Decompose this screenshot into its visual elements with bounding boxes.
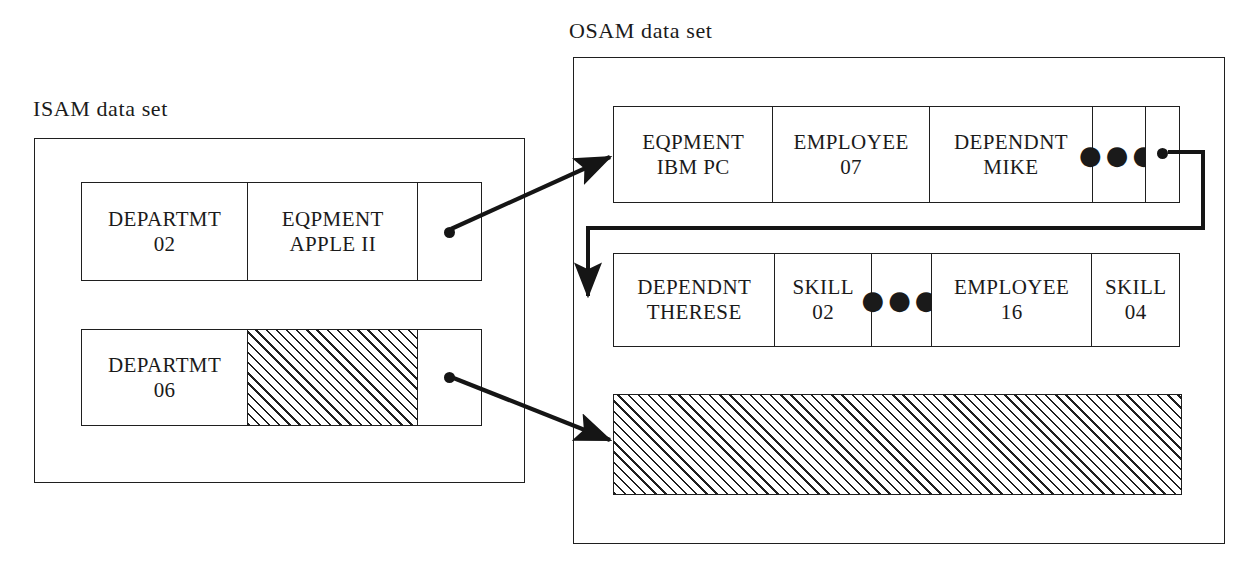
ellipsis-icon: ●●● — [861, 287, 941, 313]
cell-line-2: 04 — [1125, 300, 1147, 325]
cell-line-2: 02 — [154, 232, 176, 257]
osam-data-set-label: OSAM data set — [569, 18, 712, 44]
cell-line-1: SKILL — [1105, 275, 1167, 300]
pointer-dot-icon — [444, 372, 455, 383]
pointer-dot-icon — [1157, 148, 1168, 159]
isam-record-2-hatched-cell — [248, 330, 418, 425]
diagram-canvas: ISAM data set DEPARTMT 02 EQPMENT APPLE … — [0, 0, 1247, 573]
isam-data-set-label: ISAM data set — [33, 96, 168, 122]
osam-record-1-cell-dependnt: DEPENDNT MIKE — [930, 107, 1093, 202]
isam-record-1-pointer-cell — [418, 183, 481, 280]
cell-line-1: EMPLOYEE — [793, 130, 908, 155]
cell-line-1: DEPARTMT — [108, 353, 221, 378]
cell-line-1: EQPMENT — [642, 130, 744, 155]
cell-line-2: 02 — [812, 300, 834, 325]
cell-line-2: 16 — [1001, 300, 1023, 325]
cell-line-1: EQPMENT — [282, 207, 384, 232]
cell-line-1: SKILL — [792, 275, 854, 300]
isam-record-2: DEPARTMT 06 — [81, 329, 482, 426]
cell-line-2: APPLE II — [289, 232, 376, 257]
cell-line-1: DEPENDNT — [637, 275, 751, 300]
osam-record-2-ellipsis-cell: ●●● — [872, 254, 932, 346]
isam-record-2-cell-departmt: DEPARTMT 06 — [82, 330, 248, 425]
cell-line-1: EMPLOYEE — [954, 275, 1069, 300]
isam-record-1-cell-eqpment: EQPMENT APPLE II — [248, 183, 418, 280]
pointer-dot-icon — [444, 227, 455, 238]
osam-record-2: DEPENDNT THERESE SKILL 02 ●●● EMPLOYEE 1… — [613, 253, 1180, 347]
cell-line-1: DEPENDNT — [954, 130, 1068, 155]
cell-line-2: 06 — [154, 378, 176, 403]
cell-line-1: DEPARTMT — [108, 207, 221, 232]
isam-record-1-cell-departmt: DEPARTMT 02 — [82, 183, 248, 280]
osam-record-1-pointer-cell — [1146, 107, 1179, 202]
isam-record-1: DEPARTMT 02 EQPMENT APPLE II — [81, 182, 482, 281]
osam-record-2-cell-employee: EMPLOYEE 16 — [932, 254, 1092, 346]
cell-line-2: THERESE — [647, 300, 742, 325]
osam-record-2-cell-skill-02: SKILL 02 — [775, 254, 872, 346]
osam-record-1: EQPMENT IBM PC EMPLOYEE 07 DEPENDNT MIKE… — [613, 106, 1180, 203]
osam-record-2-cell-skill-04: SKILL 04 — [1092, 254, 1179, 346]
osam-record-1-cell-employee: EMPLOYEE 07 — [773, 107, 929, 202]
cell-line-2: 07 — [840, 155, 862, 180]
isam-record-2-pointer-cell — [418, 330, 481, 425]
cell-line-2: IBM PC — [657, 155, 730, 180]
osam-record-1-cell-eqpment: EQPMENT IBM PC — [614, 107, 773, 202]
osam-record-2-cell-dependnt: DEPENDNT THERESE — [614, 254, 775, 346]
osam-free-space-hatched-block — [613, 394, 1182, 495]
osam-record-1-ellipsis-cell: ●●● — [1093, 107, 1146, 202]
cell-line-2: MIKE — [983, 155, 1038, 180]
